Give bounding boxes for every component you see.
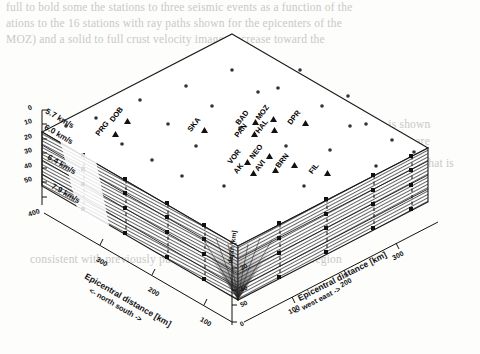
- figure-canvas: full to bold some the stations to three …: [0, 0, 480, 354]
